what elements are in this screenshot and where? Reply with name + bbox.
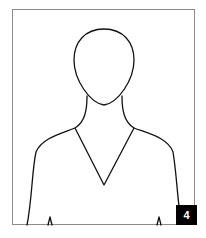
right-arm-crease	[157, 217, 161, 225]
right-shoulder-outline	[122, 96, 179, 206]
person-silhouette-icon	[0, 0, 206, 238]
badge-label: 4	[183, 209, 189, 221]
head-outline	[74, 29, 134, 105]
v-neckline	[75, 128, 134, 185]
left-shoulder-outline	[27, 96, 87, 225]
left-arm-crease	[48, 217, 52, 225]
number-badge: 4	[176, 205, 197, 225]
